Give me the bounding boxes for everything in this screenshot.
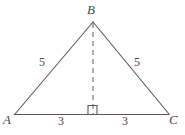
triangle-diagram-canvas (0, 0, 185, 135)
side-length-label-ab: 5 (39, 56, 45, 68)
side-length-label-bc: 5 (134, 56, 140, 68)
vertex-label-b: B (87, 3, 95, 16)
segment-length-label-dc: 3 (122, 115, 128, 127)
vertex-label-a: A (3, 113, 11, 126)
geometry-figure: B A C 5 5 3 3 (0, 0, 185, 135)
vertex-label-c: C (169, 113, 178, 126)
triangle-side-bc (93, 22, 169, 114)
triangle-side-ab (15, 22, 93, 114)
segment-length-label-ad: 3 (58, 115, 64, 127)
